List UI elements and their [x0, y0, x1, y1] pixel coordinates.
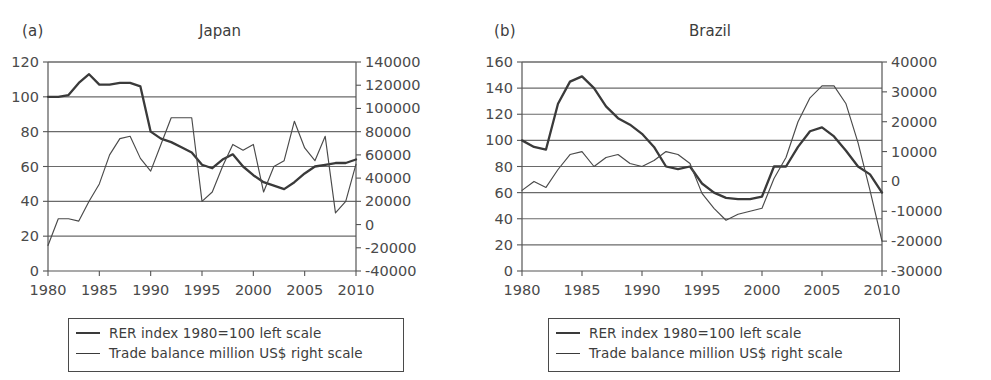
legend-label-trade: Trade balance million US$ right scale	[109, 345, 363, 361]
svg-text:0: 0	[30, 263, 39, 279]
svg-text:2005: 2005	[804, 282, 841, 298]
legend-item-trade: Trade balance million US$ right scale	[76, 343, 395, 363]
svg-text:20: 20	[495, 237, 513, 253]
svg-text:20: 20	[21, 228, 39, 244]
svg-text:60000: 60000	[365, 147, 411, 163]
legend-label-rer: RER index 1980=100 left scale	[589, 325, 801, 341]
legend-line-thick-icon	[556, 332, 580, 334]
svg-text:0: 0	[891, 173, 900, 189]
svg-text:1995: 1995	[184, 282, 221, 298]
svg-text:100: 100	[11, 89, 39, 105]
legend-line-thin-icon	[76, 353, 100, 354]
plot-area-brazil: 020406080100120140160-30000-20000-100000…	[480, 0, 991, 300]
legend-label-rer: RER index 1980=100 left scale	[109, 325, 321, 341]
svg-text:40000: 40000	[365, 170, 411, 186]
svg-text:30000: 30000	[891, 84, 937, 100]
svg-text:0: 0	[504, 263, 513, 279]
svg-text:80: 80	[21, 124, 39, 140]
svg-text:40000: 40000	[891, 54, 937, 70]
svg-text:-20000: -20000	[891, 233, 942, 249]
svg-text:160: 160	[485, 54, 513, 70]
svg-text:60: 60	[495, 185, 513, 201]
svg-text:140: 140	[485, 80, 513, 96]
legend-item-trade: Trade balance million US$ right scale	[556, 343, 891, 363]
figure-two-panel-chart: (a) Japan 020406080100120-40000-20000020…	[0, 0, 991, 380]
svg-text:1980: 1980	[30, 282, 67, 298]
svg-text:80: 80	[495, 159, 513, 175]
svg-text:1990: 1990	[132, 282, 169, 298]
svg-text:40: 40	[21, 193, 39, 209]
svg-text:-10000: -10000	[891, 203, 942, 219]
legend-brazil: RER index 1980=100 left scale Trade bala…	[548, 318, 900, 372]
svg-text:2000: 2000	[744, 282, 781, 298]
svg-text:20000: 20000	[891, 114, 937, 130]
legend-item-rer: RER index 1980=100 left scale	[556, 323, 891, 343]
svg-text:10000: 10000	[891, 144, 937, 160]
svg-text:120: 120	[485, 106, 513, 122]
svg-text:80000: 80000	[365, 124, 411, 140]
svg-text:100000: 100000	[365, 100, 420, 116]
svg-text:0: 0	[365, 217, 374, 233]
svg-text:20000: 20000	[365, 193, 411, 209]
chart-panel-japan: (a) Japan 020406080100120-40000-20000020…	[0, 0, 480, 380]
legend-japan: RER index 1980=100 left scale Trade bala…	[68, 318, 404, 372]
svg-text:-20000: -20000	[365, 240, 416, 256]
svg-text:-30000: -30000	[891, 263, 942, 279]
svg-text:-40000: -40000	[365, 263, 416, 279]
svg-text:2010: 2010	[338, 282, 375, 298]
legend-line-thin-icon	[556, 353, 580, 354]
legend-line-thick-icon	[76, 332, 100, 334]
plot-area-japan: 020406080100120-40000-200000200004000060…	[0, 0, 480, 300]
svg-text:2000: 2000	[235, 282, 272, 298]
svg-text:1985: 1985	[564, 282, 601, 298]
svg-text:120000: 120000	[365, 77, 420, 93]
svg-text:1995: 1995	[684, 282, 721, 298]
svg-text:140000: 140000	[365, 54, 420, 70]
svg-text:2005: 2005	[286, 282, 323, 298]
svg-text:40: 40	[495, 211, 513, 227]
svg-text:100: 100	[485, 132, 513, 148]
svg-text:2010: 2010	[864, 282, 901, 298]
svg-text:1985: 1985	[81, 282, 118, 298]
svg-text:120: 120	[11, 54, 39, 70]
svg-text:1990: 1990	[624, 282, 661, 298]
svg-text:60: 60	[21, 159, 39, 175]
legend-item-rer: RER index 1980=100 left scale	[76, 323, 395, 343]
svg-text:1980: 1980	[504, 282, 541, 298]
chart-panel-brazil: (b) Brazil 020406080100120140160-30000-2…	[480, 0, 991, 380]
legend-label-trade: Trade balance million US$ right scale	[589, 345, 843, 361]
